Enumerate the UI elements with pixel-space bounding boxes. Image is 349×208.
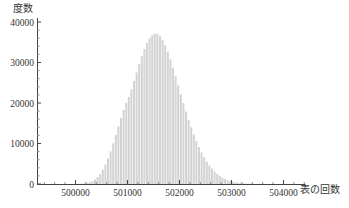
histogram-bar: [219, 176, 221, 184]
histogram-bar: [141, 56, 143, 184]
histogram-bar: [167, 52, 169, 184]
histogram-bar: [216, 174, 218, 184]
y-tick-label: 0: [29, 180, 34, 190]
histogram-bar: [149, 38, 151, 184]
histogram-bar: [211, 169, 213, 184]
histogram-bar: [164, 45, 166, 184]
histogram-bar: [221, 178, 223, 184]
histogram-bar: [91, 181, 93, 184]
histogram-bar: [162, 40, 164, 184]
x-axis-ticks: 500000501000502000503000504000: [44, 180, 304, 198]
histogram-bar: [169, 59, 171, 184]
histogram-bar: [99, 174, 101, 184]
x-tick-label: 504000: [269, 188, 298, 198]
histogram-bar: [128, 97, 130, 184]
histogram-bar: [175, 76, 177, 184]
histogram-bar: [172, 68, 174, 184]
histogram-bar: [133, 81, 135, 184]
histogram-bar: [159, 36, 161, 184]
histogram-bar: [84, 183, 86, 184]
y-tick-label: 40000: [10, 18, 34, 28]
histogram-bar: [86, 183, 88, 184]
histogram-bar: [117, 126, 119, 184]
histogram-bar: [229, 181, 231, 184]
histogram-bar: [107, 158, 109, 184]
histogram-bar: [195, 141, 197, 184]
histogram-bar: [201, 152, 203, 184]
histogram-bar: [97, 177, 99, 184]
histogram-bar: [110, 151, 112, 184]
histogram-bar: [227, 180, 229, 184]
histogram-bar: [242, 183, 244, 184]
histogram-bar: [136, 73, 138, 185]
x-axis-title: 表の回数: [300, 183, 340, 195]
histogram-bar: [102, 170, 104, 184]
histogram-bar: [203, 157, 205, 184]
histogram-bar: [125, 103, 127, 184]
histogram-bar: [156, 34, 158, 184]
histogram-bar: [182, 103, 184, 184]
histogram-bar: [104, 165, 106, 184]
x-tick-label: 503000: [217, 188, 246, 198]
histogram-bar: [185, 112, 187, 184]
histogram-bar: [146, 43, 148, 184]
histogram-bar: [138, 64, 140, 184]
histogram-bar: [232, 182, 234, 184]
histogram-bar: [143, 49, 145, 184]
x-tick-label: 501000: [113, 188, 142, 198]
histogram-bar: [237, 183, 239, 184]
histogram-bar: [240, 183, 242, 184]
histogram-bar: [115, 135, 117, 184]
histogram-bar: [130, 89, 132, 184]
histogram-bars: [65, 34, 270, 185]
histogram-bar: [94, 179, 96, 184]
histogram-bar: [89, 182, 91, 184]
y-tick-label: 20000: [10, 99, 34, 109]
histogram-bar: [190, 127, 192, 184]
y-tick-label: 30000: [10, 58, 34, 68]
x-tick-label: 502000: [165, 188, 194, 198]
histogram-bar: [234, 182, 236, 184]
y-axis-ticks: 010000200003000040000: [10, 18, 41, 190]
histogram-bar: [224, 179, 226, 184]
histogram-chart: 010000200003000040000 500000501000502000…: [0, 0, 349, 208]
y-tick-label: 10000: [10, 139, 34, 149]
histogram-bar: [188, 120, 190, 184]
histogram-bar: [193, 135, 195, 184]
histogram-bar: [206, 162, 208, 184]
histogram-bar: [198, 147, 200, 184]
histogram-bar: [112, 143, 114, 184]
histogram-bar: [214, 171, 216, 184]
histogram-bar: [177, 85, 179, 184]
histogram-bar: [154, 34, 156, 184]
histogram-bar: [151, 35, 153, 184]
histogram-bar: [180, 94, 182, 184]
histogram-bar: [208, 165, 210, 184]
x-tick-label: 500000: [61, 188, 90, 198]
y-axis-title: 度数: [13, 2, 33, 14]
histogram-bar: [120, 118, 122, 184]
histogram-bar: [123, 110, 125, 184]
